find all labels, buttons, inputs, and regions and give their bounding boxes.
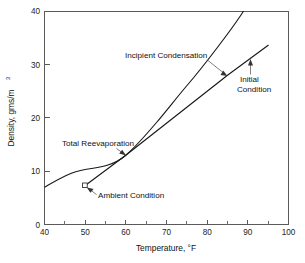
x-axis-ticks — [45, 220, 289, 225]
annotation-initial-condition-label-line2: Condition — [237, 85, 271, 94]
y-tick-label-30: 30 — [31, 61, 41, 70]
y-tick-label-0: 0 — [35, 221, 40, 230]
annotation-initial-condition-label-line1: Initial — [240, 75, 259, 84]
y-axis-tick-labels: 0 10 20 30 40 — [31, 7, 41, 229]
annotation-total-reevaporation: Total Reevaporation — [62, 139, 134, 155]
y-axis-title-exponent: 3 — [5, 77, 11, 80]
annotation-incipient-condensation-label: Incipient Condensation — [125, 51, 207, 60]
ambient-condition-marker — [83, 183, 88, 188]
x-axis-title-text: Temperature, °F — [136, 243, 196, 253]
x-tick-label-40: 40 — [40, 228, 50, 237]
x-tick-label-70: 70 — [162, 228, 172, 237]
x-tick-label-60: 60 — [121, 228, 131, 237]
y-tick-label-10: 10 — [31, 167, 41, 176]
y-tick-label-20: 20 — [31, 114, 41, 123]
x-axis-tick-labels: 40 50 60 70 80 90 100 — [40, 228, 296, 237]
series-process-line — [85, 45, 268, 185]
x-tick-label-50: 50 — [81, 228, 91, 237]
axes-frame — [45, 11, 289, 225]
x-tick-label-100: 100 — [282, 228, 296, 237]
chart-plot-area: 40 50 60 70 80 90 100 0 10 20 30 40 Dens… — [0, 0, 305, 263]
x-tick-label-80: 80 — [203, 228, 213, 237]
series-saturation-density-curve — [45, 1, 250, 187]
y-axis-ticks — [45, 11, 50, 224]
annotation-total-reevaporation-arrowhead — [119, 150, 126, 156]
annotation-ambient-condition-label: Ambient Condition — [98, 191, 164, 200]
x-tick-label-90: 90 — [243, 228, 253, 237]
annotation-incipient-condensation-leader — [208, 61, 224, 74]
annotation-ambient-condition: Ambient Condition — [87, 188, 164, 200]
y-tick-label-40: 40 — [31, 7, 41, 16]
y-axis-title: Density, gms/m 3 — [5, 77, 16, 147]
data-series-group — [45, 1, 269, 187]
y-axis-title-text: Density, gms/m — [6, 89, 16, 146]
chart-figure: 40 50 60 70 80 90 100 0 10 20 30 40 Dens… — [0, 0, 305, 263]
annotation-total-reevaporation-label: Total Reevaporation — [62, 139, 134, 148]
